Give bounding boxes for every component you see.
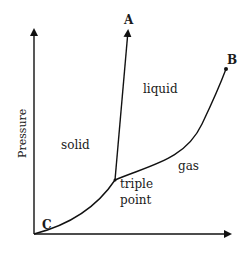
triple-point-dot [114, 179, 117, 182]
y-axis-label: Pressure [16, 109, 29, 158]
region-solid: solid [61, 138, 90, 152]
triple-point-label-1: triple [120, 177, 153, 191]
triple-point-label-2: point [120, 193, 151, 207]
label-b: B [227, 53, 237, 67]
label-c: C [42, 218, 52, 232]
region-gas: gas [178, 159, 199, 173]
phase-diagram: A B C liquid solid gas triple point Pres… [0, 0, 251, 259]
critical-point-b [224, 67, 228, 71]
label-a: A [123, 13, 134, 27]
region-liquid: liquid [143, 82, 178, 96]
solid-liquid-boundary [115, 31, 128, 180]
